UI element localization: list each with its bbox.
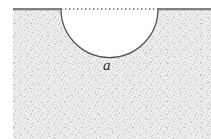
hatched-solid-body <box>13 9 211 139</box>
figure-container: a <box>0 0 211 139</box>
notch-dimension-label: a <box>103 58 111 73</box>
scan-grain <box>13 10 211 11</box>
